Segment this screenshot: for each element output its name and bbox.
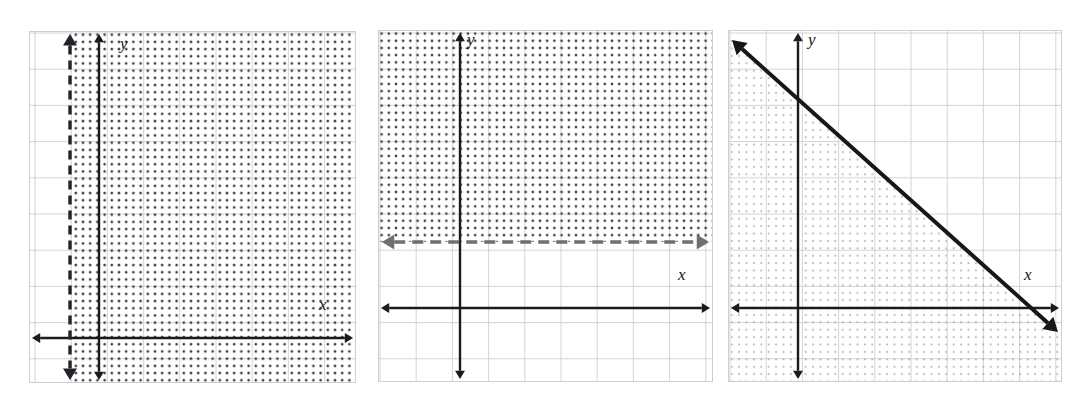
graph-1: xy [29,31,356,383]
graph-3: xy [728,30,1062,382]
graph-2-canvas [378,30,713,382]
y-axis-label: y [467,31,475,48]
graph-1-canvas [29,31,356,383]
graph-3-canvas [728,30,1062,382]
shaded-region [70,32,355,382]
x-axis-label: x [678,266,686,283]
graph-2: xy [378,30,713,382]
x-axis-label: x [1024,266,1032,283]
figure-sheet: xyxyxy [0,0,1086,398]
shaded-region [379,31,712,242]
y-axis-label: y [120,35,128,52]
y-axis-label: y [808,31,816,48]
x-axis-label: x [319,296,327,313]
